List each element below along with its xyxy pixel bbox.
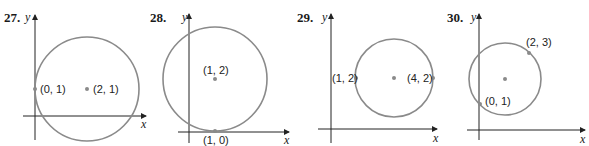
x-axis-label: x — [432, 131, 439, 145]
center-point — [503, 77, 507, 81]
center-point — [85, 87, 89, 91]
point-label: (2, 1) — [93, 83, 119, 95]
y-axis-label: y — [24, 10, 31, 24]
point-label: (1, 2) — [203, 64, 229, 76]
problem-number: 29. — [297, 10, 313, 25]
y-axis-label: y — [321, 10, 328, 24]
circle-diagrams: 27. y x (0, 1) (2, 1) 28. y x (1, 2) (1,… — [0, 0, 589, 146]
center-point — [213, 77, 217, 81]
problem-number: 30. — [447, 10, 463, 25]
x-axis-label: x — [140, 117, 147, 131]
y-axis-label: y — [181, 10, 188, 24]
graph-30: 30. y x (2, 3) (0, 1) — [447, 10, 586, 146]
graph-28: 28. y x (1, 2) (1, 0) — [150, 10, 290, 146]
center-point — [392, 76, 396, 80]
graph-29: 29. y x (1, 2) (4, 2) — [297, 10, 439, 145]
point-label: (0, 1) — [40, 83, 66, 95]
point-label: (4, 2) — [407, 72, 433, 84]
graph-27: 27. y x (0, 1) (2, 1) — [4, 10, 147, 141]
point-label: (1, 0) — [203, 134, 229, 146]
point-label: (0, 1) — [485, 95, 511, 107]
point — [213, 129, 217, 133]
y-axis-label: y — [470, 10, 477, 24]
point — [478, 102, 482, 106]
x-axis-label: x — [579, 132, 586, 146]
x-axis-label: x — [283, 133, 290, 146]
problem-number: 27. — [4, 10, 20, 25]
point-label: (2, 3) — [526, 36, 552, 48]
point — [33, 87, 37, 91]
point — [527, 51, 531, 55]
point-label: (1, 2) — [332, 72, 358, 84]
problem-number: 28. — [150, 10, 166, 25]
